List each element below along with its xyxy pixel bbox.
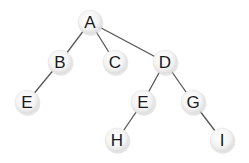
node-label: H (111, 131, 123, 150)
node-label: B (54, 53, 65, 72)
tree-diagram: ABCDEEGHI (0, 0, 249, 163)
edges-layer (27, 22, 222, 140)
node-h: H (105, 128, 130, 154)
node-e2: E (131, 90, 156, 116)
node-label: D (159, 53, 171, 72)
node-g: G (181, 90, 206, 116)
node-b: B (48, 50, 73, 76)
node-label: G (186, 93, 199, 112)
node-label: E (137, 93, 148, 112)
node-label: A (84, 13, 96, 32)
node-i: I (210, 128, 235, 154)
node-label: C (109, 53, 121, 72)
node-c: C (103, 50, 128, 76)
nodes-layer: ABCDEEGHI (15, 10, 235, 154)
node-d: D (153, 50, 178, 76)
node-label: I (220, 131, 225, 150)
node-e1: E (15, 90, 40, 116)
node-label: E (21, 93, 32, 112)
node-a: A (78, 10, 103, 36)
